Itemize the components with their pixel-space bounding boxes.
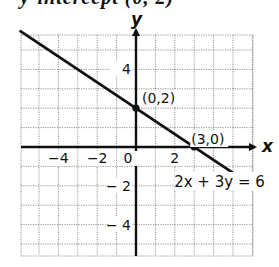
labels: xy−4−2024− 2− 4(0,2)(3,0)2x + 3y = 6 [47, 9, 274, 233]
data-point [132, 105, 139, 112]
x-tick-label: 2 [170, 150, 179, 166]
point-label: (3,0) [191, 131, 224, 147]
y-tick-label: 4 [122, 61, 131, 77]
y-axis-label: y [131, 9, 143, 29]
y-tick-label: − 2 [106, 178, 131, 194]
x-tick-label: −2 [87, 150, 108, 166]
y-tick-label: − 4 [106, 217, 131, 233]
x-tick-label: 0 [124, 150, 133, 166]
point-label: (0,2) [142, 90, 175, 106]
equation-label: 2x + 3y = 6 [174, 173, 265, 191]
coordinate-plane-chart: xy−4−2024− 2− 4(0,2)(3,0)2x + 3y = 6 [0, 0, 279, 267]
x-axis-label: x [261, 136, 274, 156]
x-tick-label: −4 [48, 150, 69, 166]
